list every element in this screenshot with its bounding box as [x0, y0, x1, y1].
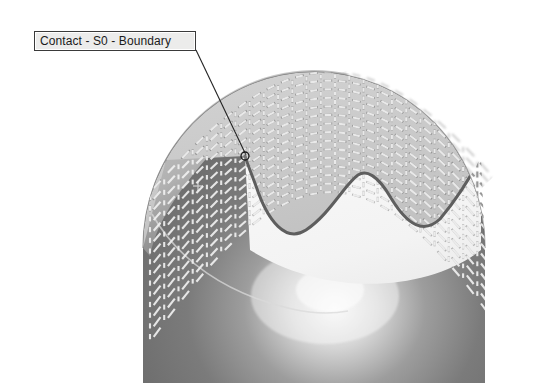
figure-canvas: Contact - S0 - Boundary: [0, 0, 539, 383]
3d-viewport[interactable]: [0, 0, 539, 383]
callout-label-text: Contact - S0 - Boundary: [40, 35, 171, 47]
callout-anchor-marker[interactable]: [241, 152, 249, 160]
callout-label-box[interactable]: Contact - S0 - Boundary: [34, 31, 196, 51]
